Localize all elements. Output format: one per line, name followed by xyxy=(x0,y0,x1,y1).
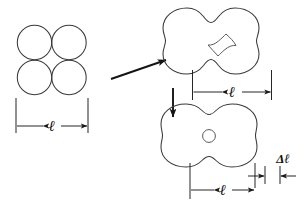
sintering-stages-diagram: ℓ ℓ ℓ xyxy=(0,0,305,206)
circle-bottom-right xyxy=(52,60,86,94)
dimension-label-left-panel: ℓ xyxy=(49,118,55,134)
circle-top-right xyxy=(52,25,86,59)
round-hole xyxy=(203,130,216,143)
diamond-hole xyxy=(208,34,236,56)
quatrefoil-outline xyxy=(163,8,259,74)
arrow-group xyxy=(111,60,173,117)
panel-rounded-quatrefoil: ℓ Δℓ xyxy=(161,104,296,199)
dimension-label-bottom-right-panel: ℓ xyxy=(220,182,226,198)
circle-group xyxy=(17,25,86,94)
rounded-quatrefoil-outline xyxy=(161,104,257,167)
dimension-label-delta-l: Δℓ xyxy=(275,151,290,166)
arrow-to-top-right xyxy=(111,60,166,79)
dimension-label-top-right-panel: ℓ xyxy=(229,84,235,100)
circle-top-left xyxy=(17,25,51,59)
panel-quatrefoil-diamond: ℓ xyxy=(163,8,272,100)
circle-bottom-left xyxy=(17,60,51,94)
panel-four-circles: ℓ xyxy=(16,25,88,134)
